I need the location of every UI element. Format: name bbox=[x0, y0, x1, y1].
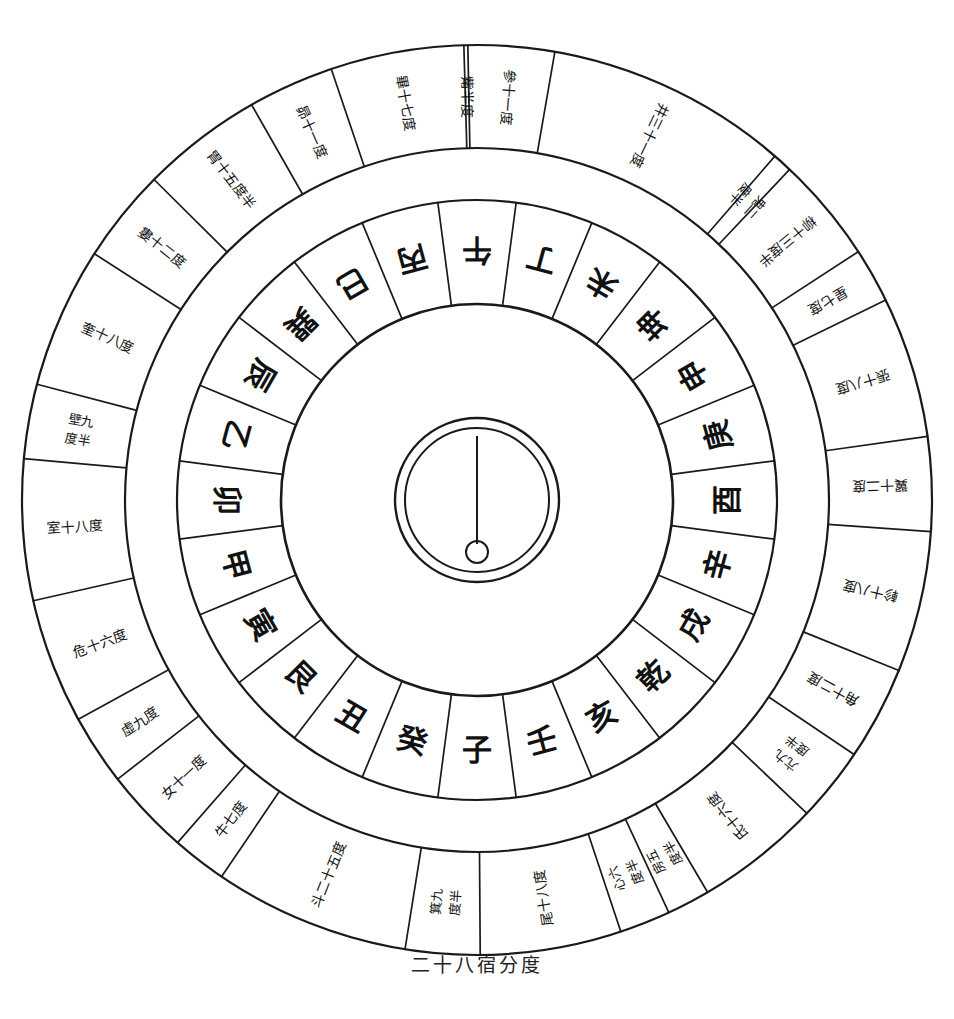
svg-text:乙: 乙 bbox=[216, 417, 256, 455]
inner-ring-cell: 辰 bbox=[239, 354, 283, 396]
inner-ring-cell: 癸 bbox=[393, 721, 432, 761]
outer-ring-cell: 軫十八度 bbox=[841, 577, 899, 604]
outer-ring-cell: 婁十二度 bbox=[136, 224, 189, 271]
svg-text:壬: 壬 bbox=[523, 721, 561, 761]
svg-text:巳: 巳 bbox=[331, 262, 373, 306]
outer-ring-cell: 危十六度 bbox=[71, 627, 129, 661]
inner-ring-cell: 乾 bbox=[631, 654, 676, 699]
svg-text:柳十三度半: 柳十三度半 bbox=[755, 213, 819, 270]
svg-text:午: 午 bbox=[462, 234, 492, 267]
outer-ring-cell: 心六度半 bbox=[605, 857, 646, 894]
svg-text:申: 申 bbox=[671, 354, 715, 396]
svg-text:軫十八度: 軫十八度 bbox=[841, 577, 899, 604]
outer-ring-cell: 井三十一度 bbox=[628, 100, 672, 170]
svg-text:角十二度: 角十二度 bbox=[805, 669, 861, 709]
svg-text:尾十八度: 尾十八度 bbox=[532, 869, 556, 927]
inner-ring-cell: 卯 bbox=[211, 485, 244, 515]
svg-text:丑: 丑 bbox=[331, 694, 373, 738]
svg-text:丙: 丙 bbox=[394, 239, 432, 279]
outer-ring-cell: 參十一度 bbox=[498, 69, 517, 126]
outer-ring-cell: 斗二十五度 bbox=[309, 840, 349, 911]
svg-text:井三十一度: 井三十一度 bbox=[628, 100, 672, 170]
svg-text:度半: 度半 bbox=[64, 430, 92, 449]
outer-ring-cell: 翼十二度 bbox=[852, 477, 908, 494]
svg-text:寅: 寅 bbox=[239, 604, 283, 646]
svg-text:翼十二度: 翼十二度 bbox=[852, 477, 908, 494]
outer-ring-cell: 室十八度 bbox=[46, 517, 103, 537]
inner-ring-cell: 丑 bbox=[331, 694, 373, 738]
outer-ring-cell: 奎十八度 bbox=[79, 320, 136, 356]
svg-text:癸: 癸 bbox=[393, 721, 432, 761]
inner-ring-cell: 辛 bbox=[698, 546, 738, 584]
inner-ring-cell: 乙 bbox=[216, 417, 256, 455]
svg-text:艮: 艮 bbox=[278, 654, 323, 699]
inner-ring-cell: 亥 bbox=[581, 694, 623, 738]
outer-ring-cell: 牛七度 bbox=[212, 799, 250, 841]
svg-text:巽: 巽 bbox=[278, 301, 323, 346]
outer-ring-cell: 胃十五度半 bbox=[204, 148, 258, 213]
inner-ring-cell: 丙 bbox=[394, 239, 432, 279]
svg-text:壁九: 壁九 bbox=[67, 411, 95, 430]
outer-ring-cell: 柳十三度半 bbox=[755, 213, 819, 270]
outer-ring-cell: 鬼二度半 bbox=[726, 180, 769, 222]
svg-text:女十一度: 女十一度 bbox=[158, 752, 210, 802]
svg-text:庚: 庚 bbox=[698, 417, 738, 455]
svg-text:昴十一度: 昴十一度 bbox=[293, 104, 330, 161]
outer-ring-cell: 張十八度 bbox=[834, 366, 892, 397]
inner-ring-cell: 甲 bbox=[216, 546, 256, 584]
diagram-canvas: 角十二度亢九度半氐十六度房五度半心六度半尾十八度箕九度半斗二十五度牛七度女十一度… bbox=[0, 0, 954, 1019]
svg-text:度半: 度半 bbox=[447, 890, 464, 917]
svg-text:亥: 亥 bbox=[581, 694, 623, 738]
outer-ring-cell: 氐十六度 bbox=[705, 789, 752, 842]
svg-text:甲: 甲 bbox=[216, 546, 256, 584]
outer-ring-cell: 壁九度半 bbox=[64, 411, 96, 449]
svg-text:畢十七度: 畢十七度 bbox=[393, 74, 418, 132]
svg-text:坤: 坤 bbox=[631, 301, 676, 346]
inner-ring-cell: 子 bbox=[462, 733, 492, 766]
svg-text:虛九度: 虛九度 bbox=[118, 704, 161, 740]
inner-ring-cell: 申 bbox=[671, 354, 715, 396]
inner-ring-cell: 酉 bbox=[710, 485, 743, 515]
svg-text:參十一度: 參十一度 bbox=[498, 69, 517, 126]
inner-ring-cell: 巳 bbox=[331, 262, 373, 306]
outer-ring-cell: 觜半度 bbox=[459, 75, 475, 117]
outer-ring-cell: 亢九度半 bbox=[771, 731, 813, 774]
svg-text:觜半度: 觜半度 bbox=[459, 75, 475, 117]
svg-text:星七度: 星七度 bbox=[806, 284, 850, 318]
svg-text:子: 子 bbox=[462, 733, 492, 766]
inner-ring-cell: 寅 bbox=[239, 604, 283, 646]
outer-ring-cell: 尾十八度 bbox=[532, 869, 556, 927]
inner-ring-cell: 坤 bbox=[631, 301, 676, 346]
svg-text:卯: 卯 bbox=[211, 485, 244, 515]
svg-text:箕九: 箕九 bbox=[428, 888, 445, 915]
outer-ring-cell: 女十一度 bbox=[158, 752, 210, 802]
svg-text:氐十六度: 氐十六度 bbox=[705, 789, 752, 842]
center-hub bbox=[395, 418, 559, 582]
svg-text:辰: 辰 bbox=[239, 354, 283, 396]
inner-ring-cell: 壬 bbox=[523, 721, 561, 761]
figure-caption: 二十八宿分度 bbox=[0, 950, 954, 977]
svg-text:辛: 辛 bbox=[698, 546, 738, 584]
outer-ring-cell: 星七度 bbox=[806, 284, 850, 318]
svg-text:戌: 戌 bbox=[671, 604, 715, 646]
svg-text:張十八度: 張十八度 bbox=[834, 366, 892, 397]
svg-text:奎十八度: 奎十八度 bbox=[79, 320, 136, 356]
svg-text:胃十五度半: 胃十五度半 bbox=[204, 148, 258, 213]
twenty-eight-mansions-wheel: 角十二度亢九度半氐十六度房五度半心六度半尾十八度箕九度半斗二十五度牛七度女十一度… bbox=[0, 0, 954, 1019]
inner-ring-cell: 午 bbox=[462, 234, 492, 267]
svg-text:酉: 酉 bbox=[710, 485, 743, 515]
svg-text:度半: 度半 bbox=[623, 857, 647, 887]
inner-ring-cell: 戌 bbox=[671, 604, 715, 646]
svg-text:乾: 乾 bbox=[631, 654, 676, 699]
inner-ring-cell: 未 bbox=[581, 262, 623, 306]
svg-text:斗二十五度: 斗二十五度 bbox=[309, 840, 349, 911]
outer-ring-cell: 角十二度 bbox=[805, 669, 861, 709]
svg-text:室十八度: 室十八度 bbox=[46, 517, 103, 537]
svg-text:丁: 丁 bbox=[523, 239, 561, 279]
outer-ring-cell: 畢十七度 bbox=[393, 74, 418, 132]
inner-ring-cell: 艮 bbox=[278, 654, 323, 699]
inner-ring-cell: 丁 bbox=[523, 239, 561, 279]
svg-text:牛七度: 牛七度 bbox=[212, 799, 250, 841]
inner-ring-cell: 巽 bbox=[278, 301, 323, 346]
outer-ring-cell: 昴十一度 bbox=[293, 104, 330, 161]
